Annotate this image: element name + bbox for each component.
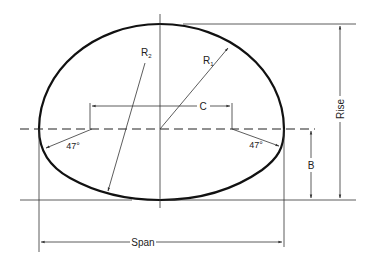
r1-label: R1: [203, 55, 214, 67]
b-label: B: [308, 160, 315, 171]
r2-label-main: R: [141, 47, 148, 58]
r1-label-sub: 1: [210, 61, 214, 67]
r1-radius-line: [160, 48, 228, 129]
pipe-arch-outline: [39, 24, 284, 200]
r1-label-main: R: [203, 55, 210, 66]
pipe-arch-diagram: Span C Rise B R1 R2 47° 47°: [0, 0, 375, 270]
angle-label-right: 47°: [249, 140, 263, 150]
r2-radius-line: [108, 63, 145, 191]
r2-label: R2: [141, 47, 152, 59]
r2-label-sub: 2: [148, 53, 152, 59]
span-label: Span: [131, 237, 154, 248]
angle-label-left: 47°: [66, 141, 80, 151]
c-label: C: [199, 101, 206, 112]
rise-label: Rise: [335, 99, 346, 119]
